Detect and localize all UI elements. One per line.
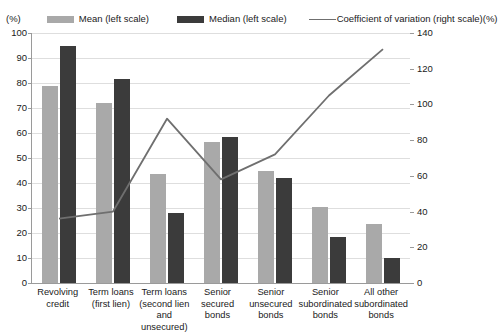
bar-group <box>32 33 86 283</box>
right-tick-label: 120 <box>417 64 433 74</box>
right-tick-label: 100 <box>417 99 433 109</box>
x-axis-label: Revolvingcredit <box>31 287 84 333</box>
left-tick-label: 50 <box>16 153 27 163</box>
x-axis-label: Seniorunsecuredbonds <box>244 287 297 333</box>
bar-median <box>222 137 238 283</box>
bar-groups <box>32 33 410 283</box>
right-tick-mark <box>410 212 414 213</box>
bar-mean <box>366 224 382 283</box>
left-tick-label: 0 <box>22 278 27 288</box>
bar-pair <box>248 33 302 283</box>
bar-median <box>168 213 184 283</box>
left-axis-unit: (%) <box>6 14 21 24</box>
bar-pair <box>86 33 140 283</box>
bar-mean <box>42 86 58 284</box>
left-tick-label: 30 <box>16 203 27 213</box>
right-tick-label: 0 <box>417 278 422 288</box>
legend-item-mean: Mean (left scale) <box>47 14 149 24</box>
left-tick-mark <box>28 283 32 284</box>
right-tick-mark <box>410 69 414 70</box>
left-tick-label: 20 <box>16 228 27 238</box>
bar-median <box>384 258 400 283</box>
right-tick-label: 20 <box>417 242 428 252</box>
right-tick-label: 80 <box>417 135 428 145</box>
cov-line-key <box>309 19 336 20</box>
x-axis-label: Term loans(second lienand unsecured) <box>138 287 191 333</box>
chart-legend: (%) Mean (left scale) Median (left scale… <box>0 12 447 26</box>
legend-label-mean: Mean (left scale) <box>79 14 149 24</box>
left-tick-label: 70 <box>16 103 27 113</box>
x-axis-labels: RevolvingcreditTerm loans(first lien)Ter… <box>31 287 409 333</box>
right-tick-label: 40 <box>417 207 428 217</box>
bar-pair <box>194 33 248 283</box>
plot-area: 1009080706050403020100 14012010080604020… <box>31 33 410 284</box>
bar-mean <box>258 171 274 284</box>
bar-mean <box>204 142 220 283</box>
bar-group <box>86 33 140 283</box>
x-axis-label: Term loans(first lien) <box>84 287 137 333</box>
left-tick-label: 10 <box>16 253 27 263</box>
median-swatch <box>177 16 204 23</box>
left-tick-label: 40 <box>16 178 27 188</box>
bar-median <box>276 178 292 283</box>
right-tick-label: 60 <box>417 171 428 181</box>
x-axis-label: All othersubordinatedbonds <box>353 287 409 333</box>
bar-mean <box>96 103 112 283</box>
bar-pair <box>356 33 410 283</box>
bar-group <box>302 33 356 283</box>
right-tick-mark <box>410 33 414 34</box>
legend-item-median: Median (left scale) <box>177 14 287 24</box>
x-axis-label: Seniorsubordinatedbonds <box>297 287 353 333</box>
bar-group <box>140 33 194 283</box>
left-tick-label: 100 <box>11 28 27 38</box>
bar-pair <box>32 33 86 283</box>
bar-mean <box>312 207 328 283</box>
x-axis-label: Seniorsecuredbonds <box>191 287 244 333</box>
bar-median <box>60 46 76 284</box>
bar-pair <box>140 33 194 283</box>
bar-mean <box>150 174 166 283</box>
legend-label-cov: Coefficient of variation (right scale) <box>337 14 483 24</box>
right-axis-unit: (%) <box>483 14 498 24</box>
left-tick-label: 60 <box>16 128 27 138</box>
bar-group <box>356 33 410 283</box>
right-tick-mark <box>410 247 414 248</box>
legend-item-cov: Coefficient of variation (right scale) <box>309 14 483 24</box>
left-tick-label: 80 <box>16 78 27 88</box>
right-tick-mark <box>410 176 414 177</box>
bar-group <box>248 33 302 283</box>
bar-median <box>114 79 130 283</box>
right-tick-mark <box>410 283 414 284</box>
bar-median <box>330 237 346 283</box>
bar-pair <box>302 33 356 283</box>
left-tick-label: 90 <box>16 53 27 63</box>
mean-swatch <box>47 16 74 23</box>
right-tick-mark <box>410 140 414 141</box>
bar-group <box>194 33 248 283</box>
legend-label-median: Median (left scale) <box>209 14 287 24</box>
right-tick-label: 140 <box>417 28 433 38</box>
right-tick-mark <box>410 104 414 105</box>
